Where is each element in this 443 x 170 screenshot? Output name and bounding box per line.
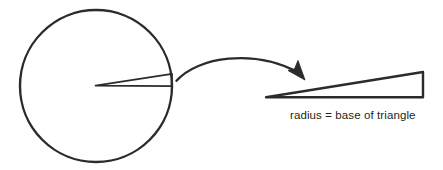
curved-arrow-shaft [177, 58, 298, 81]
diagram-canvas: radius = base of triangle [0, 0, 443, 170]
circle-to-triangle-figure: radius = base of triangle [0, 0, 443, 170]
arrow-head-icon [288, 61, 305, 81]
caption-label: radius = base of triangle [290, 109, 416, 121]
unrolled-triangle [266, 72, 423, 97]
circle-sector-wedge [96, 74, 173, 86]
